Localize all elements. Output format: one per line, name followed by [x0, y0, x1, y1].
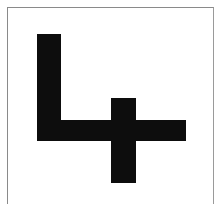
cross-vertical-bar — [111, 98, 136, 183]
